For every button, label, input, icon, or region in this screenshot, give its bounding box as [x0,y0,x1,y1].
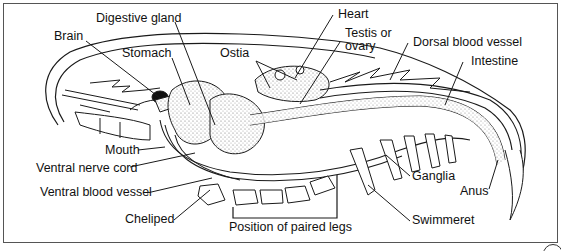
label-dorsal-blood-vessel: Dorsal blood vessel [413,36,522,49]
label-brain: Brain [54,30,83,43]
label-intestine: Intestine [471,55,518,68]
label-anus: Anus [460,185,489,198]
label-mouth: Mouth [105,144,140,157]
head [62,80,175,140]
label-ventral-nerve-cord: Ventral nerve cord [36,162,137,175]
label-ostia: Ostia [220,47,249,60]
swimmerets [350,134,456,195]
label-position-of-paired-legs: Position of paired legs [229,221,352,234]
tail [505,150,523,220]
label-testis-line2: ovary [345,40,376,53]
label-ganglia: Ganglia [412,170,455,183]
heart [255,66,329,101]
label-stomach: Stomach [122,47,171,60]
label-digestive-gland: Digestive gland [96,12,181,25]
label-swimmeret: Swimmeret [412,214,475,227]
label-ventral-blood-vessel: Ventral blood vessel [40,186,152,199]
label-heart: Heart [338,8,369,21]
label-cheliped: Cheliped [125,213,174,226]
